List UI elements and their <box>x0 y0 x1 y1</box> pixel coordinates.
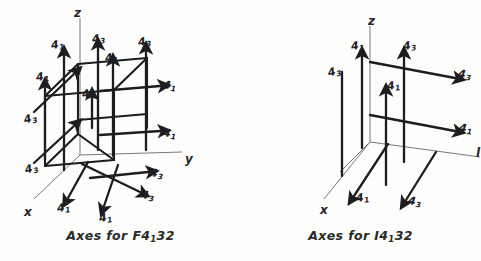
figure-caption-i432: Axes for I4132 <box>240 228 481 244</box>
y-axis-label: y <box>185 152 193 166</box>
screw-arrow-down-1 <box>68 162 88 198</box>
figure-caption-f432: Axes for F4132 <box>0 228 241 244</box>
screw-arrow-right-2 <box>100 131 160 135</box>
screw-arrow-down-1 <box>354 144 388 196</box>
screw-label-a: 41 <box>350 39 365 53</box>
screw-label-d: 43 <box>457 68 471 82</box>
screw-label-g: 41 <box>162 79 176 93</box>
y-axis-line <box>80 152 182 155</box>
cell-edge-diag-lower <box>78 134 114 160</box>
caption-suffix: 32 <box>395 228 413 243</box>
screw-label-e: 41 <box>35 70 50 84</box>
figure-page: z y x 41 43 41 43 41 41 41 43 41 43 43 4… <box>0 0 481 261</box>
x-axis-line <box>324 142 370 199</box>
y-axis-label: l <box>476 146 480 160</box>
screw-label-f: 41 <box>458 122 472 136</box>
x-axis-label: x <box>320 203 328 217</box>
screw-label-c: 41 <box>104 51 119 65</box>
screw-label-g: 41 <box>355 191 370 205</box>
x-axis-line <box>34 155 80 199</box>
screw-label-i: 41 <box>162 127 176 141</box>
caption-number: 4 <box>141 228 150 243</box>
screw-label-j: 43 <box>24 162 40 177</box>
z-axis-label: z <box>74 6 81 20</box>
caption-space-group-symbol: F <box>132 228 141 243</box>
caption-suffix: 32 <box>157 228 175 243</box>
coordinate-axes <box>324 26 480 199</box>
screw-label-n: 41 <box>98 211 113 225</box>
screw-arrow-right-1 <box>370 62 455 78</box>
z-axis-label: z <box>368 14 375 28</box>
screw-arrow-down-2 <box>406 152 436 200</box>
screw-label-c: 43 <box>327 65 343 80</box>
screw-label-b: 43 <box>91 32 106 46</box>
screw-label-d: 43 <box>137 35 152 49</box>
screw-label-h: 43 <box>23 112 39 127</box>
cell-edge-bottom-front <box>45 160 114 166</box>
screw-label-f: 41 <box>81 87 96 101</box>
screw-label-m: 43 <box>140 189 154 203</box>
screw-arrow-down-2 <box>104 165 118 206</box>
unit-cell-box <box>45 58 147 166</box>
caption-number: 4 <box>379 228 388 243</box>
screw-label-l: 41 <box>56 201 71 215</box>
caption-prefix: Axes for <box>66 228 127 243</box>
x-axis-inner <box>340 142 370 172</box>
screw-axis-arrows <box>354 57 455 200</box>
cell-edge-top-left <box>45 64 78 96</box>
screw-label-k: 43 <box>149 167 163 181</box>
screw-label-b: 43 <box>402 39 417 53</box>
screw-arrow-right-2 <box>370 115 455 131</box>
screw-label-a: 41 <box>50 38 65 52</box>
figure-panel-i432: z l x 41 43 43 43 41 41 41 43 Axes for I… <box>240 0 481 261</box>
x-axis-label: x <box>24 205 32 219</box>
screw-label-e: 41 <box>386 79 401 93</box>
screw-arrow-right-1 <box>100 86 160 91</box>
caption-prefix: Axes for <box>308 228 369 243</box>
figure-panel-f432: z y x 41 43 41 43 41 41 41 43 41 43 43 4… <box>0 0 241 261</box>
axes-diagram-f432 <box>0 0 241 225</box>
screw-axis-arrows <box>34 48 160 206</box>
screw-label-h: 43 <box>407 195 421 209</box>
